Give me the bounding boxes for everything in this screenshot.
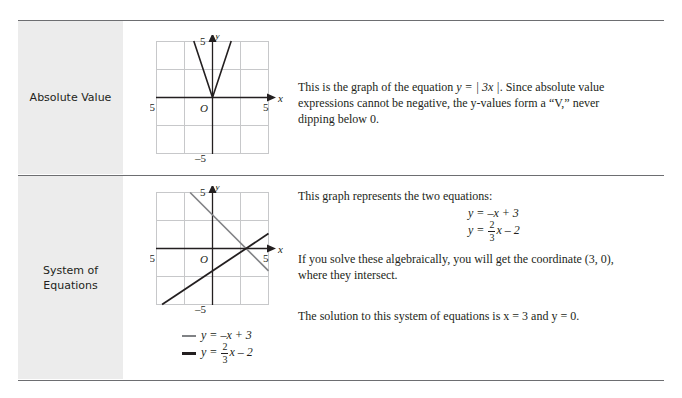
table-row-system-of-equations: System of Equations –5 5 5 y x O –5 <box>18 176 664 379</box>
system-intro: This graph represents the two equations: <box>298 188 628 204</box>
svg-text:x: x <box>277 92 283 104</box>
svg-text:5: 5 <box>263 252 269 264</box>
fraction: 23 <box>221 342 228 365</box>
svg-text:5: 5 <box>200 186 206 198</box>
svg-text:x: x <box>277 243 283 255</box>
legend-item-2: y = 23x – 2 <box>182 342 253 365</box>
svg-text:–5: –5 <box>194 303 207 315</box>
legend-item-1: y = –x + 3 <box>182 328 252 343</box>
equation-2: y = 23x – 2 <box>468 220 520 243</box>
legend-swatch-black <box>182 352 196 355</box>
absolute-value-graph: –5 5 5 y x O –5 <box>150 35 290 165</box>
system-solve-text: If you solve these algebraically, you wi… <box>298 251 628 283</box>
svg-text:O: O <box>200 102 208 114</box>
svg-text:y: y <box>214 35 220 41</box>
svg-text:5: 5 <box>200 35 206 47</box>
row-label-line1: System of <box>43 263 98 278</box>
row-label-text: Absolute Value <box>30 90 112 105</box>
fraction: 23 <box>488 220 495 243</box>
row-label: Absolute Value <box>18 21 123 174</box>
system-solution-text: The solution to this system of equations… <box>298 308 638 324</box>
table-row-absolute-value: Absolute Value –5 5 5 y x O –5 This is t… <box>18 21 664 174</box>
svg-text:–5: –5 <box>194 152 207 164</box>
svg-text:O: O <box>200 253 208 265</box>
svg-text:y: y <box>214 186 220 192</box>
svg-text:–5: –5 <box>150 252 156 264</box>
equation-abs: y = | 3x | <box>456 80 499 94</box>
system-of-equations-graph: –5 5 5 y x O –5 <box>150 186 290 316</box>
row-label-line2: Equations <box>43 278 98 293</box>
absolute-value-description: This is the graph of the equation y = | … <box>298 79 618 127</box>
table-bottom-rule <box>18 380 664 381</box>
svg-text:–5: –5 <box>150 101 156 113</box>
legend-swatch-gray <box>182 335 196 337</box>
row-label: System of Equations <box>18 176 123 379</box>
svg-text:5: 5 <box>263 101 269 113</box>
